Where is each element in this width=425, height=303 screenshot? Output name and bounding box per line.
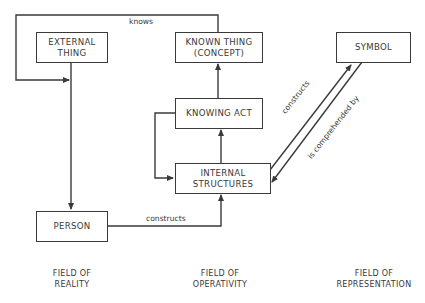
external-thing-line1: EXTERNAL — [48, 37, 95, 48]
person-label: PERSON — [53, 221, 90, 232]
person-box: PERSON — [36, 211, 108, 242]
internal-structures-line2: STRUCTURES — [193, 179, 253, 190]
external-thing-box: EXTERNAL THING — [36, 32, 108, 63]
knowing-act-box: KNOWING ACT — [175, 98, 263, 129]
field-reality: FIELD OF REALITY — [40, 268, 104, 290]
field-operativity: FIELD OF OPERATIVITY — [180, 268, 260, 290]
known-thing-box: KNOWN THING (CONCEPT) — [175, 32, 263, 63]
person-constructs-label: constructs — [146, 214, 186, 223]
internal-structures-box: INTERNAL STRUCTURES — [175, 163, 271, 194]
symbol-label: SYMBOL — [355, 42, 392, 53]
symbol-box: SYMBOL — [336, 32, 411, 63]
external-thing-line2: THING — [58, 48, 87, 59]
known-thing-line2: (CONCEPT) — [194, 48, 244, 59]
knowing-act-label: KNOWING ACT — [186, 108, 252, 119]
known-thing-line1: KNOWN THING — [185, 37, 252, 48]
comprehended-edge — [272, 62, 362, 182]
field-representation: FIELD OF REPRESENTATION — [328, 268, 420, 290]
knowing-loop-edge — [155, 113, 175, 178]
knows-label: knows — [129, 17, 153, 26]
internal-structures-line1: INTERNAL — [200, 168, 245, 179]
